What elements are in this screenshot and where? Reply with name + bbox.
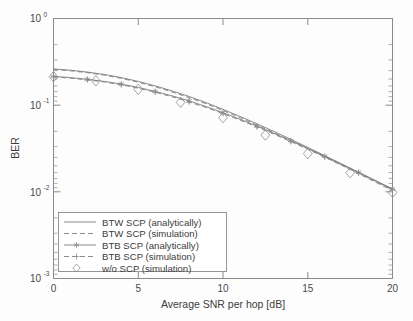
y-tick-label-0: 10: [30, 13, 42, 24]
legend-label-4: w/o SCP (simulation): [101, 263, 191, 274]
x-axis-title: Average SNR per hop [dB]: [161, 298, 285, 310]
series-1: [54, 69, 393, 190]
series-4: [49, 72, 397, 198]
y-tick-exp-3: -3: [44, 270, 50, 277]
series-line-0: [54, 69, 393, 189]
legend-label-1: BTW SCP (simulation): [102, 228, 198, 239]
y-tick-label-1: 10: [30, 100, 42, 111]
series-line-1: [54, 69, 393, 190]
data-curves: [49, 69, 397, 198]
series-3: [51, 74, 396, 193]
series-2: [51, 73, 395, 192]
legend-label-2: BTB SCP (analytically): [102, 240, 199, 251]
y-tick-exp-1: -1: [44, 97, 50, 104]
chart-svg: 10 0 10 -1 10 -2 10 -3 0 5 10 15 20 Aver…: [0, 0, 413, 321]
series-line-3: [54, 77, 393, 190]
y-tick-label-3: 10: [30, 273, 42, 284]
marker-diamond: [134, 84, 143, 94]
legend-label-3: BTB SCP (simulation): [102, 251, 195, 262]
y-tick-exp-2: -2: [44, 184, 50, 191]
ber-vs-snr-figure: 10 0 10 -1 10 -2 10 -3 0 5 10 15 20 Aver…: [0, 0, 413, 321]
y-axis-title: BER: [9, 137, 21, 159]
legend: BTW SCP (analytically) BTW SCP (simulati…: [59, 213, 227, 274]
series-0: [54, 69, 393, 189]
x-tick-label-2: 10: [217, 283, 229, 294]
x-tick-label-1: 5: [136, 283, 142, 294]
y-tick-exp-0: 0: [44, 11, 48, 18]
x-tick-label-4: 20: [387, 283, 399, 294]
legend-label-0: BTW SCP (analytically): [102, 217, 202, 228]
x-tick-labels: 0 5 10 15 20: [51, 283, 399, 294]
x-tick-label-0: 0: [51, 283, 57, 294]
y-tick-labels: 10 0 10 -1 10 -2 10 -3: [30, 11, 50, 285]
series-line-2: [54, 76, 393, 189]
y-tick-label-2: 10: [30, 187, 42, 198]
x-tick-label-3: 15: [302, 283, 314, 294]
